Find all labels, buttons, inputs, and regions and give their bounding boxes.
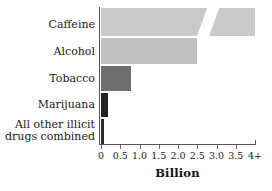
plot-area	[99, 0, 272, 145]
category-label-all-other-illicit-drugs: All other illicit drugs combined	[5, 119, 95, 143]
bar-caffeine	[101, 8, 255, 36]
x-tick-mark	[178, 145, 179, 149]
x-tick-mark	[140, 145, 141, 149]
x-tick-mark	[217, 145, 218, 149]
x-tick-mark	[101, 145, 102, 149]
x-tick-label-4-plus: 4+	[243, 150, 267, 161]
bar-chart: Caffeine Alcohol Tobacco Marijuana All o…	[0, 0, 272, 191]
category-label-tobacco: Tobacco	[49, 73, 95, 85]
x-axis: 0 0.5 1.0 1.5 2.0 2.5 3.0 3.5 4+ Billion	[99, 144, 272, 191]
category-label-marijuana: Marijuana	[38, 99, 95, 111]
x-axis-end-cap	[255, 140, 256, 145]
x-axis-title: Billion	[99, 166, 256, 180]
bar-marijuana	[101, 93, 108, 117]
bar-tobacco	[101, 66, 131, 91]
bar-all-other-illicit-drugs	[101, 119, 104, 144]
x-tick-mark	[120, 145, 121, 149]
bar-alcohol	[101, 38, 197, 64]
category-label-alcohol: Alcohol	[54, 46, 95, 58]
x-tick-mark	[159, 145, 160, 149]
x-tick-mark	[236, 145, 237, 149]
axis-break-marker	[196, 8, 219, 36]
category-label-caffeine: Caffeine	[49, 19, 95, 31]
x-tick-mark	[197, 145, 198, 149]
category-axis-labels: Caffeine Alcohol Tobacco Marijuana All o…	[0, 0, 99, 145]
